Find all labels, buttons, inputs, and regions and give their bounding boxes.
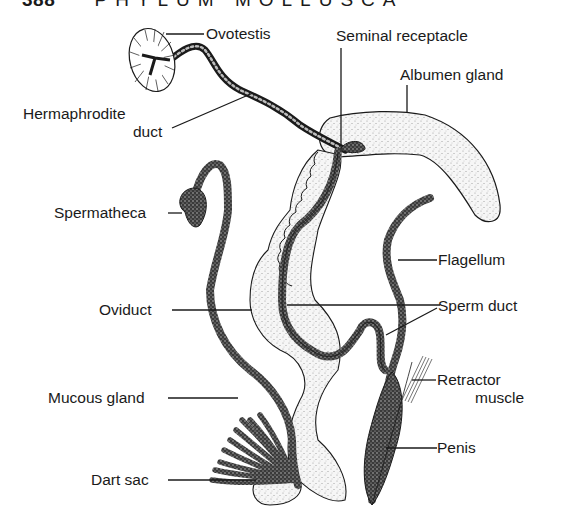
label-mucous-gland: Mucous gland (48, 390, 145, 406)
hermaphrodite-duct-shape (170, 46, 345, 150)
label-spermatheca: Spermatheca (54, 205, 146, 221)
penis-shape (364, 362, 412, 505)
label-seminal-receptacle: Seminal receptacle (336, 28, 468, 44)
label-ovotestis: Ovotestis (206, 26, 271, 42)
label-oviduct: Oviduct (99, 302, 152, 318)
label-dart-sac: Dart sac (91, 472, 149, 488)
leader-hermaphrodite-duct (172, 93, 253, 128)
leader-sperm-duct-2 (386, 308, 437, 335)
label-hermaphrodite-duct-1: Hermaphrodite (23, 106, 126, 122)
label-flagellum: Flagellum (438, 252, 505, 268)
oviduct-shape (250, 150, 346, 501)
mucous-gland-shape (212, 415, 295, 482)
label-albumen-gland: Albumen gland (400, 67, 503, 83)
label-retractor-muscle-2: muscle (475, 390, 524, 406)
label-sperm-duct: Sperm duct (438, 298, 517, 314)
label-hermaphrodite-duct-2: duct (133, 124, 162, 140)
label-penis: Penis (437, 440, 476, 456)
label-retractor-muscle-1: Retractor (437, 372, 501, 388)
